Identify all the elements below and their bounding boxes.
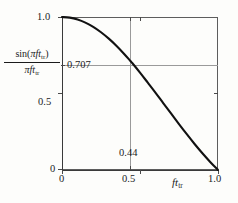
x-axis-title: fttr (172, 176, 183, 190)
chart-figure: 1.0 0.707 0.5 0 0 0.5 1.0 0.44 fttr sin(… (0, 0, 238, 203)
annotation-label-0-44: 0.44 (119, 148, 137, 159)
x-tick-label-1-0: 1.0 (208, 174, 221, 185)
y-tick-label-0-5: 0.5 (38, 97, 51, 108)
x-tick-label-0-5: 0.5 (122, 174, 135, 185)
y-axis-title-numerator: sin(πfttr) (4, 48, 60, 63)
y-tick-label-1-0: 1.0 (37, 12, 50, 23)
y-tick-label-0: 0 (50, 164, 55, 175)
x-axis-title-subscript: tr (178, 181, 183, 190)
sinc-curve (0, 0, 238, 203)
y-axis-title: sin(πfttr) πfttr (4, 48, 60, 77)
y-axis-close-paren: ) (45, 48, 48, 59)
x-tick-label-0: 0 (59, 174, 64, 185)
y-axis-title-denominator: πfttr (4, 63, 60, 77)
y-axis-sin-text: sin( (15, 48, 30, 59)
sinc-curve-path (62, 17, 218, 170)
y-tick-label-0-707: 0.707 (67, 60, 91, 71)
y-axis-denom-subscript: tr (35, 69, 39, 77)
